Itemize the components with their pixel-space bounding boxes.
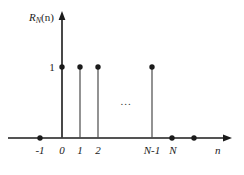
x-tick-label-1: 1 (77, 145, 83, 156)
y-axis-arrowhead (59, 11, 66, 20)
y-axis-label-argument: (n) (41, 11, 54, 23)
x-tick-label-N: N (169, 145, 176, 156)
y-axis-label: RN(n) (29, 12, 54, 25)
x-tick-label-2: 2 (95, 145, 101, 156)
marker-n1 (77, 64, 82, 69)
marker-n-minus-1 (37, 135, 42, 140)
marker-nN-plus-1 (191, 135, 196, 140)
marker-n0 (59, 64, 64, 69)
stem-markers (59, 64, 154, 69)
x-tick-label-minus-1: -1 (35, 145, 44, 156)
marker-n2 (95, 64, 100, 69)
y-tick-label-1: 1 (49, 62, 55, 73)
stem-lines (62, 67, 152, 138)
x-axis-arrowhead (223, 135, 232, 142)
marker-nN-1 (149, 64, 154, 69)
x-tick-label-0: 0 (59, 145, 65, 156)
x-tick-label-N-minus-1: N-1 (144, 145, 161, 156)
y-axis-label-main: R (29, 11, 36, 23)
continuation-ellipsis: ... (120, 96, 131, 107)
x-axis-name: n (215, 145, 221, 156)
stem-plot-figure: RN(n) 1 -1 0 1 2 N-1 N n ... (0, 0, 244, 175)
marker-nN (169, 135, 174, 140)
